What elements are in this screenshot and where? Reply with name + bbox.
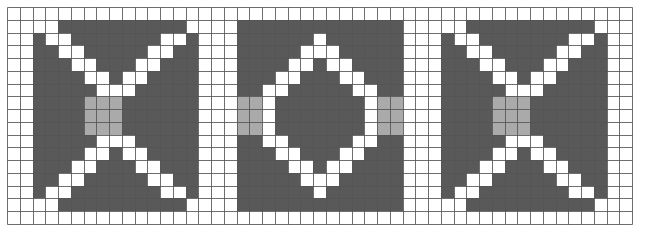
pixel-grid-canvas — [0, 0, 647, 232]
pixel-grid-figure — [0, 0, 647, 232]
